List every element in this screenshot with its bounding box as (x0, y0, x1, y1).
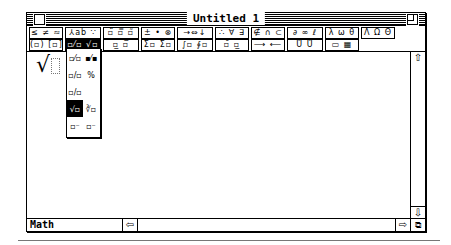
symbol-palette-button[interactable]: ∂ ∞ ℓ (287, 27, 323, 39)
template-palette-button[interactable]: ▭ ▦ (325, 39, 359, 51)
template-option[interactable]: ▫⁻ (83, 117, 99, 134)
scroll-up-arrow-icon[interactable]: ⇧ (411, 52, 425, 64)
template-palette-button[interactable]: ▫̲ ▫̅ (103, 39, 139, 51)
symbol-palette-button[interactable]: ≤ ≠ ≈ (29, 27, 63, 39)
vertical-scrollbar[interactable]: ⇧ ⇩ (410, 51, 425, 219)
toolbar-symbols-row: ≤ ≠ ≈⅄ab ∵▫̈ ▫̿ ▫̃± • ⊗→⇔↓∴ ∀ ∃∉ ∩ ⊂∂ ∞ … (27, 27, 395, 39)
template-option[interactable]: ▫⁻ (67, 117, 83, 134)
template-option (83, 83, 99, 100)
template-option[interactable]: √▫ (67, 100, 83, 117)
scroll-right-arrow-icon[interactable]: ⇨ (395, 219, 410, 231)
symbol-palette-button[interactable]: ∉ ∩ ⊂ (251, 27, 285, 39)
fraction-radical-template-palette: ▫⁄▫▪⁄▪▫/▫%▫/▫√▫∛▫▫⁻▫⁻ (66, 48, 101, 138)
status-bar: Math ⇦ ⇨ ⧉ (27, 218, 425, 231)
symbol-palette-button[interactable]: →⇔↓ (177, 27, 213, 39)
template-option[interactable]: ∛▫ (83, 100, 99, 117)
template-palette-button[interactable]: Ů Ů (287, 39, 323, 51)
window-title: Untitled 1 (187, 12, 265, 25)
template-palette-button[interactable]: ∫▫ ∮▫ (177, 39, 213, 51)
template-option[interactable]: ▫/▫ (67, 83, 83, 100)
template-option[interactable]: ▫⁄▫ (67, 49, 83, 66)
symbol-palette-button[interactable]: ∴ ∀ ∃ (215, 27, 249, 39)
close-box[interactable] (34, 14, 45, 25)
template-option[interactable]: % (83, 66, 99, 83)
symbol-palette-button[interactable]: Λ Ω Θ (361, 27, 395, 39)
template-palette-button[interactable]: Σ▫ Σ▫ (141, 39, 175, 51)
style-mode-label[interactable]: Math (27, 219, 123, 231)
zoom-box[interactable] (407, 14, 418, 25)
divider (18, 240, 440, 241)
scroll-left-arrow-icon[interactable]: ⇦ (123, 219, 138, 231)
template-palette-button[interactable]: ⟶ ⟵ (251, 39, 285, 51)
symbol-palette-button[interactable]: ▫̈ ▫̿ ▫̃ (103, 27, 139, 39)
equation-radical[interactable]: √ (36, 52, 60, 77)
grow-box-icon[interactable]: ⧉ (410, 219, 425, 231)
template-palette-button[interactable]: ▫̄ ▫̲ (215, 39, 249, 51)
radical-sign: √ (36, 52, 50, 77)
symbol-palette-button[interactable]: ⅄ab ∵ (65, 27, 101, 39)
symbol-palette-button[interactable]: ± • ⊗ (141, 27, 175, 39)
title-bar[interactable]: Untitled 1 (27, 13, 425, 26)
horizontal-scrollbar[interactable]: ⇦ ⇨ (123, 219, 410, 231)
template-option[interactable]: ▫/▫ (67, 66, 83, 83)
empty-slot[interactable] (51, 58, 60, 74)
template-option[interactable]: ▪⁄▪ (83, 49, 99, 66)
symbol-palette-button[interactable]: λ ω θ (325, 27, 359, 39)
template-palette-button[interactable]: (▫) [▫] (29, 39, 63, 51)
